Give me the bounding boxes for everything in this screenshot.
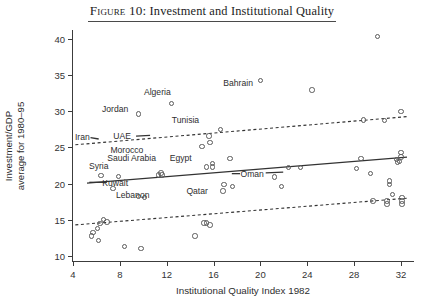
figure-title-text: Investment and Institutional Quality xyxy=(146,4,334,18)
y-axis-tick-label: 30 xyxy=(54,106,65,117)
y-axis-tick-label: 25 xyxy=(54,142,65,153)
point-label-bahrain: Bahrain xyxy=(223,78,253,88)
point-label-egypt: Egypt xyxy=(170,153,192,163)
point-label-algeria: Algeria xyxy=(144,87,171,97)
x-axis-tick-label: 24 xyxy=(302,269,313,280)
data-point xyxy=(204,164,209,169)
y-axis-tick-label: 20 xyxy=(54,178,65,189)
iran-leader xyxy=(91,138,99,139)
data-point xyxy=(169,101,174,106)
y-axis-title: Investment/GDP average for 1980–95 xyxy=(4,30,26,262)
plot-inner: AlgeriaJordanBahrainTunisiaIranUAEMorocc… xyxy=(73,30,414,261)
x-axis-title: Institutional Quality Index 1982 xyxy=(72,285,414,296)
data-point xyxy=(358,156,363,161)
point-label-uae: UAE xyxy=(113,131,131,141)
figure-container: Figure 10: Investment and Institutional … xyxy=(0,0,424,307)
point-label-lebanon: Lebanon xyxy=(116,190,149,200)
data-point xyxy=(220,188,225,193)
y-axis-tick xyxy=(68,147,73,148)
y-axis-tick xyxy=(68,256,73,257)
data-point xyxy=(89,233,94,238)
y-axis-tick xyxy=(68,75,73,76)
figure-title-wrap: Figure 10: Investment and Institutional … xyxy=(0,1,424,22)
data-point xyxy=(207,140,212,145)
data-point xyxy=(395,159,400,164)
figure-number: Figure 10: xyxy=(90,3,146,18)
x-axis-tick-label: 28 xyxy=(349,269,360,280)
y-axis-tick-label: 35 xyxy=(54,69,65,80)
data-point xyxy=(199,144,204,149)
y-axis-title-line1: Investment/GDP xyxy=(3,102,15,191)
data-point xyxy=(210,164,215,169)
x-axis-tick-label: 12 xyxy=(161,269,172,280)
data-point xyxy=(158,170,163,175)
uae-leader xyxy=(136,135,150,136)
x-axis-tick-label: 8 xyxy=(117,269,122,280)
data-point xyxy=(384,201,389,206)
x-axis-tick xyxy=(73,261,74,266)
x-axis-tick xyxy=(354,261,355,266)
point-label-qatar: Qatar xyxy=(186,186,208,196)
data-point xyxy=(138,246,143,251)
x-axis-tick xyxy=(167,261,168,266)
data-point xyxy=(136,111,141,116)
data-point xyxy=(104,219,109,224)
x-axis-tick xyxy=(214,261,215,266)
point-label-jordan: Jordan xyxy=(102,104,128,114)
plot-area: AlgeriaJordanBahrainTunisiaIranUAEMorocc… xyxy=(72,30,414,262)
y-axis-tick-label: 15 xyxy=(54,214,65,225)
data-point xyxy=(387,182,392,187)
point-label-iran: Iran xyxy=(75,132,90,142)
y-axis-tick xyxy=(68,111,73,112)
data-point xyxy=(309,87,314,92)
y-axis-title-line2: average for 1980–95 xyxy=(15,102,27,191)
y-axis-tick-label: 10 xyxy=(54,251,65,262)
x-axis-tick xyxy=(307,261,308,266)
point-label-syria: Syria xyxy=(89,161,109,171)
point-label-tunisia: Tunisia xyxy=(172,115,199,125)
x-axis-tick-label: 16 xyxy=(208,269,219,280)
page-title: Figure 10: Investment and Institutional … xyxy=(88,3,336,22)
x-axis-tick-label: 20 xyxy=(255,269,266,280)
data-point xyxy=(370,198,375,203)
data-point xyxy=(361,117,366,122)
data-point xyxy=(221,182,226,187)
y-axis-tick xyxy=(68,39,73,40)
data-point xyxy=(227,156,232,161)
x-axis-tick xyxy=(120,261,121,266)
point-label-kuwait: Kuwait xyxy=(102,178,128,188)
lower-band-line xyxy=(75,198,407,225)
point-label-saudi-arabia: Saudi Arabia xyxy=(107,153,156,163)
data-point xyxy=(272,174,277,179)
x-axis-tick xyxy=(401,261,402,266)
y-axis-tick xyxy=(68,220,73,221)
y-axis-tick xyxy=(68,184,73,185)
x-axis-tick xyxy=(260,261,261,266)
x-axis-tick-label: 4 xyxy=(70,269,75,280)
data-point xyxy=(398,109,403,114)
point-label-oman: Oman xyxy=(240,169,263,179)
y-axis-tick-label: 40 xyxy=(54,33,65,44)
x-axis-tick-label: 32 xyxy=(396,269,407,280)
data-point xyxy=(192,233,197,238)
data-point xyxy=(206,133,211,138)
oman-leader-right xyxy=(266,172,284,173)
data-point xyxy=(207,222,212,227)
data-point xyxy=(399,201,404,206)
